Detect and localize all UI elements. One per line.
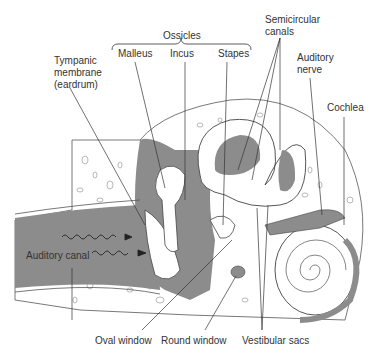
label-semicircular-canals: Semicircular canals — [265, 14, 320, 38]
label-tympanic-membrane: Tympanic membrane (eardrum) — [54, 55, 102, 91]
auditory-canal — [15, 205, 160, 290]
label-oval-window: Oval window — [95, 335, 152, 347]
label-vestibular-sacs: Vestibular sacs — [242, 335, 309, 347]
label-ossicles: Ossicles — [163, 30, 201, 42]
label-semicircular-line1: Semicircular — [265, 14, 320, 26]
label-incus: Incus — [170, 48, 194, 60]
label-tympanic-line1: Tympanic — [54, 55, 102, 67]
label-tympanic-line2: membrane — [54, 67, 102, 79]
label-semicircular-line2: canals — [265, 26, 320, 38]
label-auditory-nerve: Auditory nerve — [297, 52, 334, 76]
label-auditory-nerve-line1: Auditory — [297, 52, 334, 64]
label-round-window: Round window — [161, 335, 227, 347]
label-malleus: Malleus — [118, 48, 152, 60]
round-window-shape — [231, 266, 245, 278]
label-cochlea: Cochlea — [327, 102, 364, 114]
label-auditory-nerve-line2: nerve — [297, 64, 334, 76]
label-tympanic-line3: (eardrum) — [54, 79, 102, 91]
cochlea-shape — [275, 225, 355, 315]
label-auditory-canal: Auditory canal — [26, 250, 89, 262]
label-stapes: Stapes — [218, 48, 249, 60]
